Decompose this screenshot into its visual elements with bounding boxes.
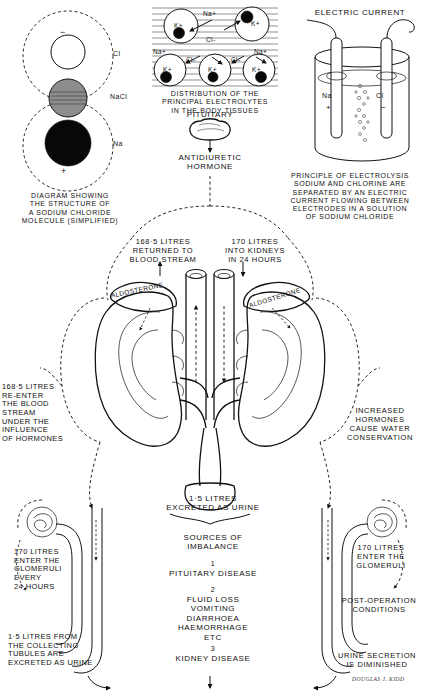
sodium-label: Na bbox=[113, 140, 123, 148]
anode-wire bbox=[307, 20, 336, 38]
molecule-caption: DIAGRAM SHOWING THE STRUCTURE OF A SODIU… bbox=[0, 192, 140, 225]
imbalance-number-3: 3 bbox=[150, 645, 276, 653]
pituitary-gland-figure bbox=[190, 119, 230, 152]
right-collecting-duct-outer bbox=[322, 508, 350, 673]
cell-k-label-1: K+ bbox=[174, 22, 183, 30]
electric-current-heading: ELECTRIC CURRENT bbox=[300, 8, 420, 17]
imbalance-heading: SOURCES OF IMBALANCE bbox=[150, 533, 276, 552]
gas-bubbles bbox=[355, 84, 369, 141]
free-sodium-label-3: Na+ bbox=[254, 48, 267, 56]
nacl-label: NaCl bbox=[110, 93, 127, 101]
renal-vessels bbox=[180, 378, 240, 428]
cathode-sign: − bbox=[381, 103, 386, 112]
electrolysis-apparatus bbox=[307, 20, 414, 161]
pituitary-shape bbox=[190, 119, 230, 140]
free-chloride-label-1: Cl- bbox=[206, 36, 216, 44]
chloride-minus-sign: − bbox=[60, 27, 66, 37]
right-glomerulus-tuft bbox=[374, 514, 392, 532]
left-afferent-arteriole bbox=[18, 500, 42, 528]
hormone-branch-left bbox=[132, 206, 210, 238]
sodium-plus-sign: + bbox=[61, 166, 67, 176]
into-kidneys-label: 170 LITRES INTO KIDNEYS IN 24 HOURS bbox=[212, 238, 298, 265]
antidiuretic-hormone-label: ANTIDIURETIC HORMONE bbox=[165, 153, 255, 172]
post-operation-note: POST-OPERATION CONDITIONS bbox=[334, 597, 424, 615]
cathode-wire bbox=[387, 20, 414, 38]
pituitary-label: PITUITARY bbox=[170, 110, 250, 119]
urine-diminished-note: URINE SECRETION IS DIMINISHED bbox=[330, 652, 424, 670]
cell-k-label-5: K+ bbox=[252, 66, 261, 74]
nacl-molecule-figure bbox=[23, 11, 113, 191]
anode-sign: + bbox=[326, 103, 331, 112]
cathode-label: Cl bbox=[376, 92, 383, 100]
imbalance-number-2: 2 bbox=[150, 586, 276, 594]
right-kidney-body bbox=[239, 292, 325, 446]
diagram-page: − Cl NaCl Na + DIAGRAM SHOWING THE STRUC… bbox=[0, 0, 425, 694]
right-ureter bbox=[216, 428, 221, 486]
anode-rod bbox=[331, 38, 342, 138]
left-glomerulus-tuft bbox=[34, 514, 52, 532]
electrolysis-caption: PRINCIPLE OF ELECTROLYSIS SODIUM AND CHL… bbox=[275, 172, 425, 222]
chloride-label: Cl bbox=[113, 50, 120, 58]
right-hormone-note: INCREASED HORMONES CAUSE WATER CONSERVAT… bbox=[336, 407, 424, 442]
imbalance-item-3: KIDNEY DISEASE bbox=[142, 654, 284, 663]
free-chloride-label-3: Cl- bbox=[231, 56, 241, 64]
cathode-rod bbox=[381, 38, 392, 138]
free-sodium-label-1: Na+ bbox=[203, 10, 216, 18]
imbalance-item-1: PITUITARY DISEASE bbox=[142, 569, 284, 578]
jar-rim bbox=[315, 47, 409, 67]
aorta-opening bbox=[214, 270, 234, 279]
left-kidney-body bbox=[95, 292, 181, 446]
urine-output-brace bbox=[170, 514, 250, 524]
imbalance-number-1: 1 bbox=[150, 560, 276, 568]
left-ureter bbox=[199, 428, 204, 486]
kidneys-figure bbox=[95, 292, 325, 510]
cell-k-label-2: K+ bbox=[251, 20, 260, 28]
cell-k-label-3: K+ bbox=[163, 66, 172, 74]
urine-output-label: 1·5 LITRES EXCRETED AS URINE bbox=[140, 494, 286, 513]
free-chloride-label-2: Cl- bbox=[186, 56, 196, 64]
free-sodium-label-2: Na+ bbox=[153, 48, 166, 56]
left-nephron-intake-note: 170 LITRES ENTER THE GLOMERULI EVERY 24 … bbox=[14, 548, 98, 591]
sodium-ion-circle bbox=[45, 120, 91, 166]
vena-cava-opening bbox=[186, 270, 206, 279]
kidney-internal-structure bbox=[119, 312, 301, 418]
imbalance-item-2: FLUID LOSS VOMITING DIARRHOEA HAEMORRHAG… bbox=[142, 595, 284, 642]
left-nephron-output-note: 1·5 LITRES FROM THE COLLECTING TUBULES A… bbox=[8, 633, 112, 668]
cell-k-label-4: K+ bbox=[208, 66, 217, 74]
bottom-return-arrows bbox=[88, 676, 336, 688]
great-vessels bbox=[186, 270, 234, 421]
returned-to-blood-label: 168·5 LITRES RETURNED TO BLOOD STREAM bbox=[118, 238, 208, 265]
right-nephron-figure bbox=[322, 500, 406, 673]
left-hormone-note: 168·5 LITRES RE-ENTER THE BLOOD STREAM U… bbox=[2, 383, 94, 444]
anode-label: Na bbox=[322, 92, 332, 100]
chloride-ion-circle bbox=[51, 35, 85, 69]
vessel-flow-arrows bbox=[196, 306, 224, 382]
artist-signature: DOUGLAS J. KIDD bbox=[352, 676, 405, 682]
nacl-bond-circle bbox=[49, 79, 87, 117]
right-nephron-intake-note: 170 LITRES ENTER THE GLOMERULI bbox=[340, 544, 422, 571]
